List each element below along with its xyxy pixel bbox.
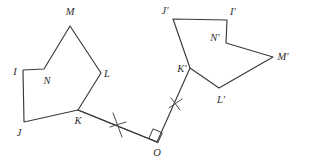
vertex-label-I: I <box>12 66 17 77</box>
connector-o-kprime-group <box>157 68 190 142</box>
vertex-label-J-prime: J′ <box>162 5 170 16</box>
vertex-label-M: M <box>65 6 76 17</box>
geometry-figure: I J K L M N I′ J′ K′ L′ M′ N′ O <box>0 0 310 162</box>
vertex-label-K: K <box>73 115 82 126</box>
image-pentagon-outline <box>173 19 273 88</box>
vertex-label-I-prime: I′ <box>229 6 236 17</box>
vertex-label-O: O <box>153 147 161 158</box>
preimage-pentagon-outline <box>23 26 101 122</box>
vertex-label-M-prime: M′ <box>276 51 289 62</box>
vertex-label-N: N <box>42 75 51 86</box>
connector-k-o-group <box>78 110 157 142</box>
vertex-label-N-prime: N′ <box>209 32 220 43</box>
vertex-label-K-prime: K′ <box>176 63 187 74</box>
image-pentagon-group <box>173 19 273 88</box>
tick-mark-k-o <box>110 113 126 137</box>
geometry-canvas: I J K L M N I′ J′ K′ L′ M′ N′ O <box>0 0 310 162</box>
preimage-pentagon-group <box>23 26 101 122</box>
vertex-label-L: L <box>103 68 110 79</box>
vertex-label-J: J <box>17 127 23 138</box>
vertex-label-L-prime: L′ <box>216 94 226 105</box>
